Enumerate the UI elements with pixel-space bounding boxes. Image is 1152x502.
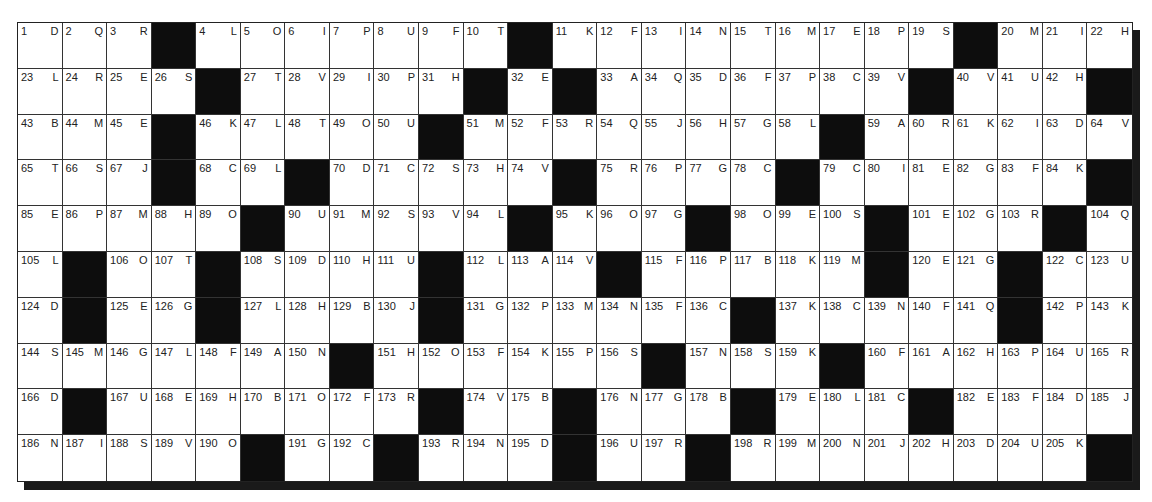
grid-cell[interactable]: 46K — [196, 115, 241, 161]
grid-cell[interactable]: 88H — [152, 206, 197, 252]
grid-cell[interactable]: 4L — [196, 23, 241, 69]
grid-cell[interactable]: 6I — [285, 23, 330, 69]
grid-cell[interactable]: 123U — [1087, 252, 1132, 298]
grid-cell[interactable]: 193R — [419, 435, 464, 481]
grid-cell[interactable]: 165R — [1087, 344, 1132, 390]
grid-cell[interactable]: 59A — [865, 115, 910, 161]
grid-cell[interactable]: 27T — [241, 69, 286, 115]
grid-cell[interactable]: 69L — [241, 160, 286, 206]
grid-cell[interactable]: 180L — [820, 389, 865, 435]
grid-cell[interactable]: 161A — [909, 344, 954, 390]
grid-cell[interactable]: 189V — [152, 435, 197, 481]
grid-cell[interactable]: 118K — [776, 252, 821, 298]
grid-cell[interactable]: 158S — [731, 344, 776, 390]
grid-cell[interactable]: 110H — [330, 252, 375, 298]
grid-cell[interactable]: 37P — [776, 69, 821, 115]
grid-cell[interactable]: 155P — [553, 344, 598, 390]
grid-cell[interactable]: 35D — [686, 69, 731, 115]
grid-cell[interactable]: 3R — [107, 23, 152, 69]
grid-cell[interactable]: 109D — [285, 252, 330, 298]
grid-cell[interactable]: 152O — [419, 344, 464, 390]
grid-cell[interactable]: 199M — [776, 435, 821, 481]
grid-cell[interactable]: 57G — [731, 115, 776, 161]
grid-cell[interactable]: 127L — [241, 298, 286, 344]
grid-cell[interactable]: 34Q — [642, 69, 687, 115]
grid-cell[interactable]: 48T — [285, 115, 330, 161]
grid-cell[interactable]: 179E — [776, 389, 821, 435]
grid-cell[interactable]: 76P — [642, 160, 687, 206]
grid-cell[interactable]: 7P — [330, 23, 375, 69]
grid-cell[interactable]: 113A — [508, 252, 553, 298]
grid-cell[interactable]: 167U — [107, 389, 152, 435]
grid-cell[interactable]: 143K — [1087, 298, 1132, 344]
grid-cell[interactable]: 47L — [241, 115, 286, 161]
grid-cell[interactable]: 87M — [107, 206, 152, 252]
grid-cell[interactable]: 29I — [330, 69, 375, 115]
grid-cell[interactable]: 81E — [909, 160, 954, 206]
grid-cell[interactable]: 84K — [1043, 160, 1088, 206]
grid-cell[interactable]: 105L — [18, 252, 63, 298]
grid-cell[interactable]: 141Q — [954, 298, 999, 344]
grid-cell[interactable]: 136C — [686, 298, 731, 344]
grid-cell[interactable]: 66S — [63, 160, 108, 206]
grid-cell[interactable]: 139N — [865, 298, 910, 344]
grid-cell[interactable]: 12F — [597, 23, 642, 69]
grid-cell[interactable]: 97G — [642, 206, 687, 252]
grid-cell[interactable]: 157N — [686, 344, 731, 390]
grid-cell[interactable]: 83F — [998, 160, 1043, 206]
grid-cell[interactable]: 181C — [865, 389, 910, 435]
grid-cell[interactable]: 108S — [241, 252, 286, 298]
grid-cell[interactable]: 130J — [374, 298, 419, 344]
grid-cell[interactable]: 16M — [776, 23, 821, 69]
grid-cell[interactable]: 8U — [374, 23, 419, 69]
grid-cell[interactable]: 151H — [374, 344, 419, 390]
grid-cell[interactable]: 174V — [464, 389, 509, 435]
grid-cell[interactable]: 61K — [954, 115, 999, 161]
grid-cell[interactable]: 36F — [731, 69, 776, 115]
grid-cell[interactable]: 156S — [597, 344, 642, 390]
grid-cell[interactable]: 96O — [597, 206, 642, 252]
grid-cell[interactable]: 15T — [731, 23, 776, 69]
grid-cell[interactable]: 121G — [954, 252, 999, 298]
grid-cell[interactable]: 102G — [954, 206, 999, 252]
grid-cell[interactable]: 33A — [597, 69, 642, 115]
grid-cell[interactable]: 119M — [820, 252, 865, 298]
grid-cell[interactable]: 67J — [107, 160, 152, 206]
grid-cell[interactable]: 49O — [330, 115, 375, 161]
grid-cell[interactable]: 202H — [909, 435, 954, 481]
grid-cell[interactable]: 177G — [642, 389, 687, 435]
grid-cell[interactable]: 112L — [464, 252, 509, 298]
grid-cell[interactable]: 25E — [107, 69, 152, 115]
grid-cell[interactable]: 187I — [63, 435, 108, 481]
grid-cell[interactable]: 45E — [107, 115, 152, 161]
grid-cell[interactable]: 85E — [18, 206, 63, 252]
grid-cell[interactable]: 43B — [18, 115, 63, 161]
grid-cell[interactable]: 153F — [464, 344, 509, 390]
grid-cell[interactable]: 52F — [508, 115, 553, 161]
grid-cell[interactable]: 30P — [374, 69, 419, 115]
grid-cell[interactable]: 146G — [107, 344, 152, 390]
grid-cell[interactable]: 126G — [152, 298, 197, 344]
grid-cell[interactable]: 70D — [330, 160, 375, 206]
grid-cell[interactable]: 129B — [330, 298, 375, 344]
grid-cell[interactable]: 183F — [998, 389, 1043, 435]
grid-cell[interactable]: 184D — [1043, 389, 1088, 435]
grid-cell[interactable]: 1D — [18, 23, 63, 69]
grid-cell[interactable]: 18P — [865, 23, 910, 69]
grid-cell[interactable]: 100S — [820, 206, 865, 252]
grid-cell[interactable]: 86P — [63, 206, 108, 252]
grid-cell[interactable]: 10T — [464, 23, 509, 69]
grid-cell[interactable]: 62I — [998, 115, 1043, 161]
grid-cell[interactable]: 79C — [820, 160, 865, 206]
grid-cell[interactable]: 56H — [686, 115, 731, 161]
grid-cell[interactable]: 73H — [464, 160, 509, 206]
grid-cell[interactable]: 145M — [63, 344, 108, 390]
grid-cell[interactable]: 31H — [419, 69, 464, 115]
grid-cell[interactable]: 120E — [909, 252, 954, 298]
grid-cell[interactable]: 63D — [1043, 115, 1088, 161]
grid-cell[interactable]: 91M — [330, 206, 375, 252]
grid-cell[interactable]: 142P — [1043, 298, 1088, 344]
grid-cell[interactable]: 22H — [1087, 23, 1132, 69]
grid-cell[interactable]: 178B — [686, 389, 731, 435]
grid-cell[interactable]: 154K — [508, 344, 553, 390]
